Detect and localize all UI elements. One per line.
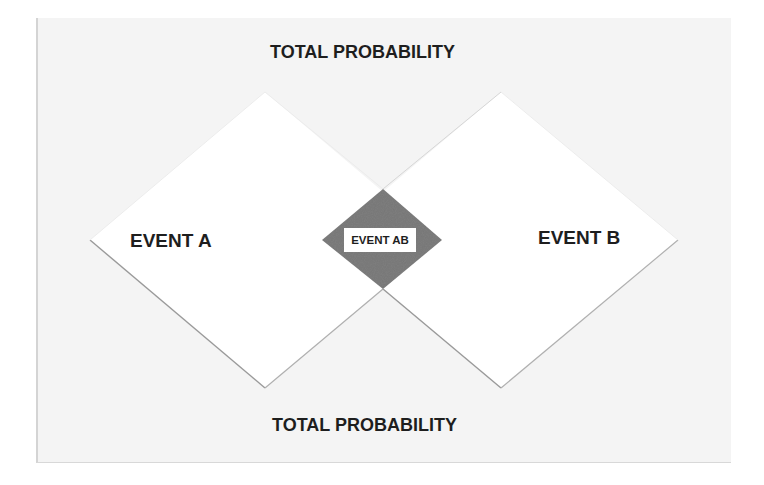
event-a-label: EVENT A [130,230,212,252]
event-ab-label: EVENT AB [351,234,409,246]
total-probability-top-label: TOTAL PROBABILITY [270,42,455,63]
total-probability-bottom-label: TOTAL PROBABILITY [272,415,457,436]
event-ab-label-box: EVENT AB [344,228,416,252]
event-b-label: EVENT B [538,227,620,249]
